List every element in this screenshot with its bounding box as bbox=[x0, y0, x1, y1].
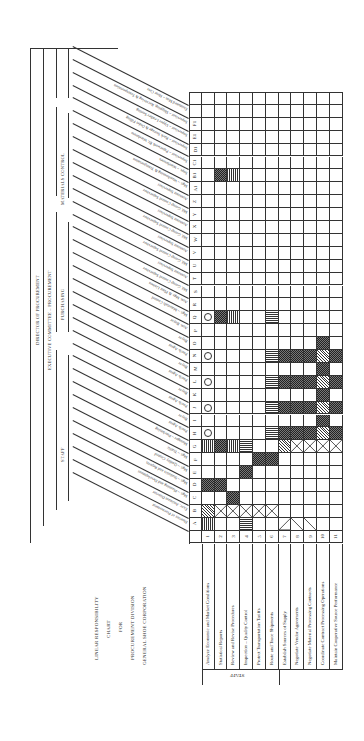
responsibility-symbol-diag bbox=[279, 440, 292, 453]
grid-cell bbox=[330, 492, 343, 505]
grid-cell bbox=[240, 402, 253, 415]
grid-cell bbox=[253, 260, 266, 273]
grid-cell bbox=[227, 195, 240, 208]
grid-cell bbox=[240, 479, 253, 492]
grid-cell bbox=[215, 427, 228, 440]
task-label: Protect Transportation Tariffs bbox=[253, 544, 266, 670]
header-divider-line bbox=[73, 355, 189, 415]
grid-cell bbox=[253, 234, 266, 247]
grid-cell bbox=[304, 208, 317, 221]
responsibility-symbol-check bbox=[330, 427, 343, 440]
position-code: J bbox=[189, 402, 202, 415]
grid-cell bbox=[227, 479, 240, 492]
grid-cell bbox=[253, 157, 266, 170]
title-line-1: LINEAR RESPONSIBILITY bbox=[94, 596, 99, 660]
grid-cell bbox=[279, 298, 292, 311]
grid-cell bbox=[279, 466, 292, 479]
grid-cell bbox=[266, 195, 279, 208]
responsibility-symbol-hstripe bbox=[240, 518, 253, 531]
grid-cell bbox=[202, 92, 215, 105]
grid-cell bbox=[291, 118, 304, 131]
grid-cell bbox=[304, 492, 317, 505]
position-code: Y bbox=[189, 208, 202, 221]
grid-cell bbox=[330, 247, 343, 260]
responsibility-symbol-x bbox=[317, 440, 330, 453]
grid-cell bbox=[317, 466, 330, 479]
grid-cell bbox=[279, 260, 292, 273]
grid-cell bbox=[202, 169, 215, 182]
task-label: Review and Revise Procedures bbox=[227, 544, 240, 670]
grid-cell bbox=[253, 427, 266, 440]
group-header-staff: STAFF bbox=[60, 448, 65, 462]
grid-cell bbox=[240, 105, 253, 118]
grid-cell bbox=[330, 415, 343, 428]
grid-cell bbox=[253, 118, 266, 131]
grid-cell bbox=[330, 234, 343, 247]
position-code: U bbox=[189, 260, 202, 273]
responsibility-symbol-check bbox=[215, 169, 228, 182]
grid-cell bbox=[266, 234, 279, 247]
grid-cell bbox=[202, 144, 215, 157]
grid-cell bbox=[266, 389, 279, 402]
grid-cell bbox=[317, 131, 330, 144]
responsibility-symbol-check bbox=[215, 311, 228, 324]
grid-cell bbox=[227, 144, 240, 157]
grid-cell bbox=[304, 389, 317, 402]
grid-cell bbox=[304, 363, 317, 376]
grid-cell bbox=[266, 492, 279, 505]
position-code: L bbox=[189, 376, 202, 389]
grid-cell bbox=[215, 131, 228, 144]
title-line-4: PROCUREMENT DIVISION bbox=[130, 595, 135, 660]
grid-cell bbox=[330, 505, 343, 518]
grid-cell bbox=[279, 169, 292, 182]
position-code: M bbox=[189, 363, 202, 376]
grid-cell bbox=[291, 466, 304, 479]
responsibility-symbol-x bbox=[304, 440, 317, 453]
responsibility-symbol-x bbox=[253, 505, 266, 518]
grid-cell bbox=[279, 118, 292, 131]
committee-header: EXECUTIVE COMMITTEE – PROCUREMENT bbox=[47, 270, 52, 370]
grid-cell bbox=[317, 505, 330, 518]
grid-cell bbox=[317, 518, 330, 531]
position-code: K bbox=[189, 389, 202, 402]
grid-cell bbox=[202, 131, 215, 144]
grid-cell bbox=[266, 144, 279, 157]
position-code: F1 bbox=[189, 118, 202, 131]
responsibility-symbol-slash bbox=[304, 518, 317, 531]
position-code: Q bbox=[189, 311, 202, 324]
position-code: V bbox=[189, 247, 202, 260]
grid-cell bbox=[330, 221, 343, 234]
grid-cell bbox=[202, 273, 215, 286]
header-divider-line bbox=[73, 59, 189, 119]
grid-cell bbox=[215, 337, 228, 350]
grid-cell bbox=[291, 415, 304, 428]
grid-cell bbox=[240, 92, 253, 105]
grid-cell bbox=[240, 208, 253, 221]
responsibility-symbol-x bbox=[266, 505, 279, 518]
responsibility-symbol-check bbox=[291, 427, 304, 440]
grid-cell bbox=[279, 311, 292, 324]
grid-cell bbox=[304, 221, 317, 234]
grid-cell bbox=[317, 273, 330, 286]
grid-cell bbox=[317, 144, 330, 157]
title-line-5: GENERAL SHOE CORPORATION bbox=[142, 586, 147, 665]
grid-cell bbox=[266, 169, 279, 182]
grid-cell bbox=[227, 453, 240, 466]
grid-cell bbox=[266, 273, 279, 286]
grid-cell bbox=[227, 389, 240, 402]
grid-cell bbox=[240, 311, 253, 324]
grid-cell bbox=[291, 182, 304, 195]
grid-cell bbox=[227, 324, 240, 337]
grid-cell bbox=[317, 247, 330, 260]
grid-cell bbox=[266, 118, 279, 131]
grid-cell bbox=[227, 363, 240, 376]
grid-cell bbox=[266, 298, 279, 311]
grid-cell bbox=[215, 402, 228, 415]
grid-cell bbox=[266, 479, 279, 492]
responsibility-symbol-x bbox=[240, 505, 253, 518]
grid-cell bbox=[240, 169, 253, 182]
grid-cell bbox=[266, 337, 279, 350]
grid-cell bbox=[304, 479, 317, 492]
grid-cell bbox=[215, 415, 228, 428]
grid-cell bbox=[240, 157, 253, 170]
